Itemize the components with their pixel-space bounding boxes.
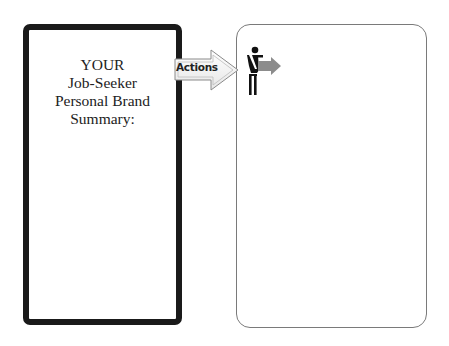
summary-heading: YOUR Job-Seeker Personal Brand Summary:	[23, 56, 182, 128]
summary-line-3: Personal Brand	[23, 92, 182, 110]
summary-line-4: Summary:	[23, 110, 182, 128]
summary-line-2: Job-Seeker	[23, 74, 182, 92]
person-pointing-icon	[245, 46, 285, 98]
actions-label: Actions	[176, 61, 212, 73]
summary-line-1: YOUR	[23, 56, 182, 74]
